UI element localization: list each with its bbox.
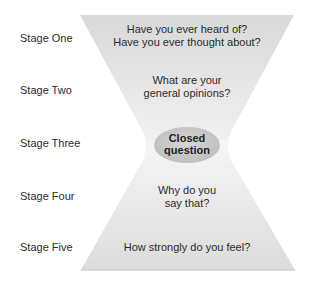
stage-four-question: Why do you say that? <box>137 184 237 210</box>
stage-label-four: Stage Four <box>20 190 74 202</box>
stage-one-question: Have you ever heard of? Have you ever th… <box>107 23 267 49</box>
closed-question-label: Closed question <box>157 132 217 156</box>
stage-label-two: Stage Two <box>20 84 72 96</box>
stage-five-question: How strongly do you feel? <box>107 241 267 254</box>
stage-label-five: Stage Five <box>20 241 73 253</box>
stage-label-three: Stage Three <box>20 137 80 149</box>
stage-label-one: Stage One <box>20 32 73 44</box>
stage-two-question: What are your general opinions? <box>127 74 247 100</box>
